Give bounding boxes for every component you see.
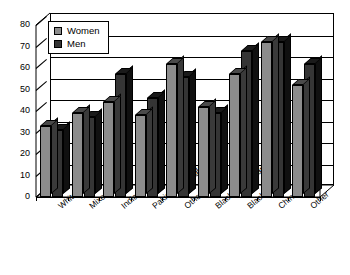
y-tick-label-40: 40: [6, 106, 30, 115]
chart-legend: Women Men: [48, 21, 109, 54]
bar-front-face: [292, 85, 303, 197]
legend-item-men: Men: [54, 39, 100, 49]
y-tick-label-70: 70: [6, 42, 30, 51]
women-swatch-icon: [54, 27, 62, 35]
bar-chinese-women: [261, 42, 272, 197]
bar-side-face: [63, 121, 70, 194]
legend-label-men: Men: [67, 39, 85, 49]
bar-side-face: [303, 76, 310, 194]
y-tick-80: [36, 16, 47, 26]
bar-front-face: [40, 126, 51, 197]
men-swatch-icon: [54, 40, 62, 48]
legend-item-women: Women: [54, 26, 100, 36]
bar-front-face: [166, 64, 177, 197]
bar-front-face: [261, 42, 272, 197]
y-tick-label-20: 20: [6, 149, 30, 158]
bar-black-african-women: [229, 74, 240, 197]
bar-front-face: [135, 115, 146, 197]
legend-label-women: Women: [67, 26, 100, 36]
y-tick-label-30: 30: [6, 128, 30, 137]
bar-front-face: [198, 107, 209, 197]
y-tick-label-50: 50: [6, 85, 30, 94]
bar-other-asian-women: [166, 64, 177, 197]
bar-mixed-women: [72, 113, 83, 197]
bar-side-face: [189, 68, 196, 194]
bar-pakistani-bangladeshi-women: [135, 115, 146, 197]
bar-black-caribbean-women: [198, 107, 209, 197]
bar-chart: 01020304050607080 WhiteMixedIndianPakist…: [0, 0, 350, 275]
y-tick-label-10: 10: [6, 171, 30, 180]
bar-side-face: [272, 33, 279, 194]
x-axis-line: [36, 197, 320, 198]
y-tick-70: [36, 38, 47, 48]
y-tick-50: [36, 81, 47, 91]
bar-side-face: [83, 104, 90, 194]
bar-front-face: [103, 102, 114, 197]
bar-side-face: [284, 33, 291, 194]
bar-side-face: [177, 55, 184, 194]
bar-side-face: [209, 98, 216, 194]
y-tick-60: [36, 59, 47, 69]
y-tick-label-60: 60: [6, 63, 30, 72]
y-tick-40: [36, 102, 47, 112]
bar-front-face: [229, 74, 240, 197]
bar-side-face: [315, 55, 322, 194]
bar-side-face: [146, 106, 153, 194]
bar-indian-women: [103, 102, 114, 197]
bar-side-face: [126, 66, 133, 194]
bar-front-face: [72, 113, 83, 197]
bar-side-face: [95, 109, 102, 194]
bar-side-face: [158, 89, 165, 194]
x-tick-0: [36, 197, 37, 201]
bar-side-face: [221, 104, 228, 194]
bar-side-face: [114, 94, 121, 194]
y-tick-label-0: 0: [6, 192, 30, 201]
bar-side-face: [51, 117, 58, 194]
bar-side-face: [240, 66, 247, 194]
y-tick-label-80: 80: [6, 20, 30, 29]
bar-other-women: [292, 85, 303, 197]
bar-white-women: [40, 126, 51, 197]
bar-side-face: [252, 42, 259, 194]
